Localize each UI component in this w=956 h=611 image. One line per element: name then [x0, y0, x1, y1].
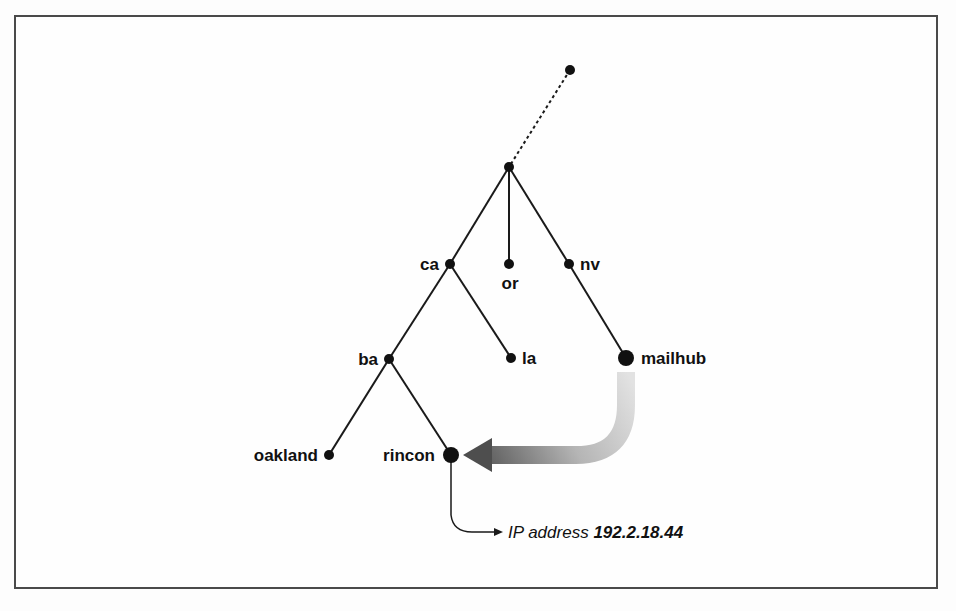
edge-top-root: [509, 70, 570, 167]
result-pointer-line: [451, 460, 495, 532]
node-la: [506, 353, 516, 363]
node-nv: [564, 259, 574, 269]
edge-ca-ba: [389, 264, 450, 359]
result-pointer-arrowhead: [494, 528, 503, 536]
edge-nv-mailhub: [569, 264, 626, 358]
label-mailhub: mailhub: [641, 349, 706, 368]
ip-address-value: 192.2.18.44: [593, 523, 683, 542]
node-root: [504, 162, 514, 172]
label-rincon: rincon: [383, 446, 435, 465]
node-ba: [384, 354, 394, 364]
edge-ba-rincon: [389, 359, 451, 455]
edge-ba-oakland: [329, 359, 389, 455]
label-or: or: [502, 274, 519, 293]
ip-address-result: IP address 192.2.18.44: [508, 523, 684, 542]
node-or: [504, 259, 514, 269]
label-ba: ba: [358, 350, 378, 369]
edge-root-nv: [509, 167, 569, 264]
node-ca: [445, 259, 455, 269]
referral-arrow: [463, 372, 626, 472]
edge-root-ca: [450, 167, 509, 264]
dns-tree-diagram: ca or nv ba la mailhub oakland rincon IP…: [0, 0, 956, 611]
ip-address-prefix: IP address: [508, 523, 589, 542]
node-top: [565, 65, 575, 75]
label-la: la: [522, 349, 537, 368]
node-rincon: [443, 447, 459, 463]
label-nv: nv: [580, 255, 600, 274]
label-oakland: oakland: [254, 446, 318, 465]
label-ca: ca: [420, 255, 439, 274]
node-mailhub: [618, 350, 634, 366]
node-oakland: [324, 450, 334, 460]
tree-edges: [329, 167, 626, 455]
